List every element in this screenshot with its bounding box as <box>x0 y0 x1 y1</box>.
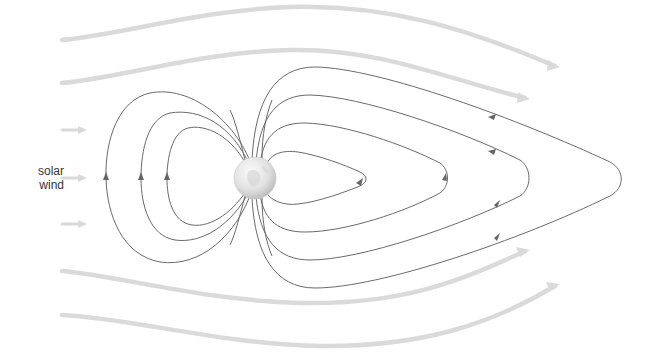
short-wind-arrows <box>62 126 87 228</box>
dayside-field-loops <box>103 92 252 263</box>
earth-globe <box>234 157 276 199</box>
solar-wind-streamlines <box>62 7 560 346</box>
field-arrow-icon <box>494 233 500 241</box>
wind-stream-bottom-2 <box>62 286 555 346</box>
solar-wind-label-line1: solar <box>24 164 64 178</box>
wind-arrow-icon <box>78 174 87 182</box>
wind-arrow-icon <box>547 60 560 71</box>
field-arrow-icon <box>442 173 447 181</box>
solar-wind-label-line2: wind <box>24 178 64 192</box>
wind-stream-top-1 <box>62 7 555 66</box>
solar-wind-label: solar wind <box>24 164 64 192</box>
wind-stream-bottom-1 <box>62 251 525 303</box>
wind-arrow-icon <box>78 126 87 134</box>
tail-field-loops <box>252 67 621 288</box>
field-arrow-icon <box>103 172 109 180</box>
field-arrow-icon <box>488 114 496 120</box>
wind-stream-top-2 <box>62 50 525 98</box>
wind-arrow-icon <box>517 92 530 103</box>
field-arrow-icon <box>488 149 496 155</box>
magnetosphere-diagram <box>0 0 654 357</box>
field-arrow-icon <box>164 172 170 180</box>
wind-arrow-icon <box>78 220 87 228</box>
field-arrow-icon <box>138 172 144 180</box>
field-arrow-icon <box>494 200 500 208</box>
